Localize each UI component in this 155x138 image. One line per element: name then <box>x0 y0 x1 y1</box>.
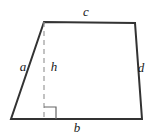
trapezoid-outline <box>11 22 142 119</box>
label-top-side-c: c <box>83 4 89 19</box>
label-height-h: h <box>51 59 58 74</box>
label-right-side-d: d <box>138 60 145 75</box>
right-angle-marker-icon <box>44 107 56 119</box>
trapezoid-figure: c a h d b <box>0 0 155 138</box>
label-left-side-a: a <box>20 59 27 74</box>
trapezoid-svg: c a h d b <box>0 0 155 138</box>
label-bottom-side-b: b <box>74 120 81 135</box>
